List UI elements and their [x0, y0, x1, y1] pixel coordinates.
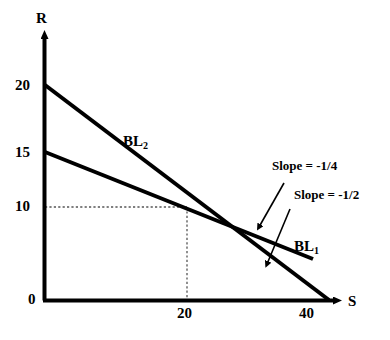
budget-line-bl2 [45, 85, 329, 300]
y-axis-label: R [36, 11, 47, 26]
annotation-slope-quarter: Slope = -1/4 [272, 159, 337, 172]
x-axis-label: S [348, 294, 356, 309]
budget-line-figure: R S 20 15 10 0 20 40 BL2 BL1 Slope = -1/… [0, 0, 390, 340]
slope-quarter-arrow [259, 183, 284, 227]
budget-lines [45, 85, 329, 300]
x-tick-label-40: 40 [299, 306, 314, 321]
curve-label-bl2-text: BL [123, 133, 143, 149]
y-tick-label-0: 0 [28, 292, 36, 307]
y-tick-label-15: 15 [15, 145, 30, 160]
curve-label-bl1-subscript: 1 [314, 245, 319, 256]
slope-half-arrow [267, 209, 290, 264]
y-tick-label-10: 10 [15, 199, 30, 214]
curve-label-bl2: BL2 [123, 134, 148, 149]
annotation-slope-half: Slope = -1/2 [294, 188, 359, 201]
curve-label-bl1-text: BL [294, 238, 314, 254]
curve-label-bl2-subscript: 2 [143, 140, 148, 151]
guide-lines [45, 207, 187, 300]
x-tick-label-20: 20 [177, 306, 192, 321]
curve-label-bl1: BL1 [294, 239, 319, 254]
y-tick-label-20: 20 [15, 78, 30, 93]
